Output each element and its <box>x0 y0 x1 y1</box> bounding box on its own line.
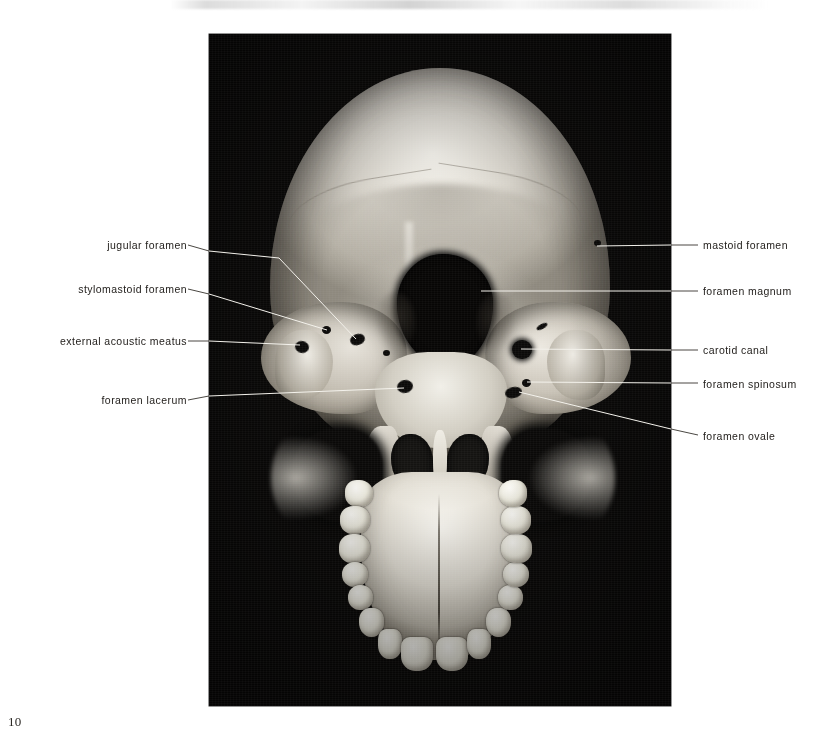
label-foramen-spinosum: foramen spinosum <box>703 379 797 390</box>
tooth-upper-right-first-molar <box>339 534 370 563</box>
scan-artifact-band <box>170 0 770 9</box>
anatomy-photograph <box>209 34 671 706</box>
tooth-upper-left-second-premolar <box>503 562 529 587</box>
tooth-upper-left-first-molar <box>501 534 532 563</box>
stylomastoid-foramen-opening <box>322 326 331 334</box>
label-external-acoustic-meatus: external acoustic meatus <box>60 336 187 347</box>
label-carotid-canal: carotid canal <box>703 345 768 356</box>
skull-specimen <box>209 34 671 706</box>
tooth-upper-left-canine <box>486 608 511 637</box>
leader-stylomastoid-foramen-page <box>188 289 209 294</box>
tooth-upper-right-central-incisor <box>401 637 433 671</box>
tooth-upper-left-lateral-incisor <box>467 629 491 659</box>
tooth-upper-right-third-molar <box>345 480 373 507</box>
tooth-upper-left-central-incisor <box>436 637 468 671</box>
label-stylomastoid-foramen: stylomastoid foramen <box>78 284 187 295</box>
label-foramen-magnum: foramen magnum <box>703 286 792 297</box>
hypoglossal-canal-left <box>383 350 390 356</box>
tooth-upper-left-third-molar <box>499 480 527 507</box>
tooth-upper-right-second-premolar <box>342 562 368 587</box>
foramen-spinosum-opening <box>522 379 531 387</box>
tooth-upper-right-second-molar <box>340 506 370 534</box>
page-number: 10 <box>8 714 22 730</box>
tooth-upper-left-first-premolar <box>498 585 523 610</box>
leader-jugular-foramen-page <box>188 245 209 251</box>
tooth-upper-right-lateral-incisor <box>378 629 402 659</box>
occipital-condyle-right <box>477 292 517 354</box>
label-foramen-ovale: foramen ovale <box>703 431 775 442</box>
median-palatine-suture <box>438 494 440 642</box>
mastoid-foramen-opening <box>594 240 601 246</box>
tooth-upper-left-second-molar <box>501 506 531 534</box>
occipital-condyle-left <box>375 292 415 354</box>
tooth-upper-right-first-premolar <box>348 585 373 610</box>
leader-foramen-ovale-page <box>671 429 698 435</box>
leader-foramen-lacerum-page <box>188 396 209 400</box>
carotid-canal-opening <box>512 340 532 359</box>
label-mastoid-foramen: mastoid foramen <box>703 240 788 251</box>
page-canvas: jugular foramen stylomastoid foramen ext… <box>0 0 838 743</box>
label-jugular-foramen: jugular foramen <box>107 240 187 251</box>
label-foramen-lacerum: foramen lacerum <box>101 395 187 406</box>
